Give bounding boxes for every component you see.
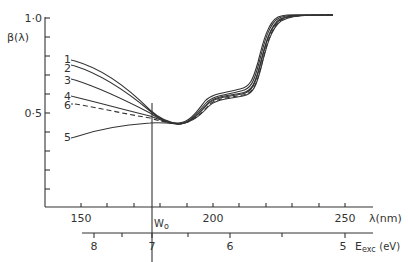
x-tick-label-250: 250 bbox=[335, 212, 356, 225]
x-axis-energy-ticks bbox=[94, 233, 345, 238]
y-axis-label: β(λ) bbox=[7, 31, 29, 44]
y-axis-ticks bbox=[45, 18, 50, 189]
e-tick-label-8: 8 bbox=[91, 240, 98, 253]
x-tick-label-200: 200 bbox=[203, 212, 224, 225]
e-tick-label-6: 6 bbox=[227, 240, 234, 253]
w0-label: Wo bbox=[154, 218, 169, 231]
e-tick-label-7: 7 bbox=[149, 240, 156, 253]
beta-lambda-chart: 1 2 3 4 6 5 1·0 0·5 β(λ) 150 200 250 λ(n… bbox=[0, 0, 408, 262]
curve-label-6: 6 bbox=[64, 99, 71, 112]
y-tick-label-0-5: 0·5 bbox=[25, 107, 43, 120]
e-tick-label-5: 5 bbox=[340, 240, 347, 253]
x-axis-label-lambda: λ(nm) bbox=[369, 212, 402, 225]
curve-label-5: 5 bbox=[64, 131, 71, 144]
curve-4 bbox=[75, 15, 333, 124]
curves bbox=[75, 15, 333, 137]
curve-label-3: 3 bbox=[64, 74, 71, 87]
x-axis-lambda-ticks bbox=[81, 203, 345, 207]
e-axis-label: Eexc (eV) bbox=[355, 240, 400, 254]
y-tick-label-1-0: 1·0 bbox=[25, 12, 43, 25]
curve-5 bbox=[75, 15, 333, 137]
x-tick-label-150: 150 bbox=[71, 212, 92, 225]
